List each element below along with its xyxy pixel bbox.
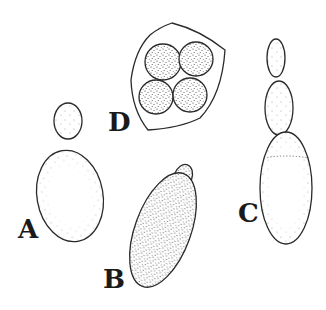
panel-c: C [238,39,312,244]
spore [179,42,213,76]
panel-label-c: C [238,198,259,228]
panel-label-b: B [103,264,125,294]
panel-d: D [108,23,225,137]
yeast-cells-figure: D A B C [0,0,326,310]
panel-b: B [103,162,210,296]
spore [139,80,173,114]
spore [145,44,181,80]
ascus-wall [131,23,225,130]
cell-interior [264,138,308,238]
panel-label-d: D [108,107,131,137]
bud-middle [265,81,293,135]
mother-cell [116,164,210,296]
spore [173,78,207,112]
panel-label-a: A [17,214,39,244]
bud [54,103,82,139]
bud-top [267,39,285,77]
panel-a: A [17,103,110,247]
